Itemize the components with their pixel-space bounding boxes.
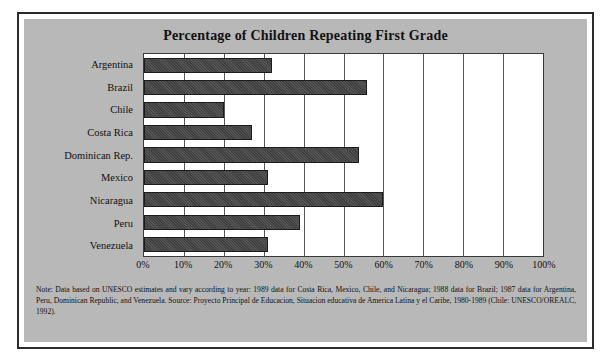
bar-venezuela bbox=[144, 237, 268, 252]
x-tick-label: 100% bbox=[532, 259, 555, 270]
x-tick-label: 0% bbox=[136, 259, 149, 270]
bar-brazil bbox=[144, 80, 367, 95]
bar-slot bbox=[144, 166, 543, 188]
bar-series bbox=[144, 54, 543, 256]
chart-outer-frame: Percentage of Children Repeating First G… bbox=[17, 12, 594, 349]
category-label: Brazil bbox=[24, 76, 141, 99]
plot-area bbox=[143, 53, 544, 257]
category-label: Mexico bbox=[24, 166, 141, 189]
x-tick-label: 50% bbox=[334, 259, 352, 270]
category-label: Chile bbox=[24, 98, 141, 121]
x-tick-label: 60% bbox=[374, 259, 392, 270]
bar-nicaragua bbox=[144, 192, 383, 207]
category-label: Peru bbox=[24, 212, 141, 235]
x-tick-label: 70% bbox=[415, 259, 433, 270]
bar-slot bbox=[144, 99, 543, 121]
category-label: Costa Rica bbox=[24, 121, 141, 144]
value-axis: 0%10%20%30%40%50%60%70%80%90%100% bbox=[143, 259, 544, 277]
chart-title: Percentage of Children Repeating First G… bbox=[24, 28, 587, 44]
plot-wrapper: Argentina Brazil Chile Costa Rica Domini… bbox=[24, 53, 587, 283]
x-tick-label: 10% bbox=[174, 259, 192, 270]
category-label: Dominican Rep. bbox=[24, 144, 141, 167]
bar-slot bbox=[144, 211, 543, 233]
bar-slot bbox=[144, 76, 543, 98]
bar-dominican-rep bbox=[144, 147, 359, 162]
bar-costa-rica bbox=[144, 125, 252, 140]
x-tick-label: 80% bbox=[455, 259, 473, 270]
bar-argentina bbox=[144, 58, 272, 73]
bar-slot bbox=[144, 144, 543, 166]
bar-slot bbox=[144, 189, 543, 211]
bar-chile bbox=[144, 102, 224, 117]
bar-slot bbox=[144, 234, 543, 256]
bar-slot bbox=[144, 54, 543, 76]
x-tick-label: 30% bbox=[254, 259, 272, 270]
chart-panel: Percentage of Children Repeating First G… bbox=[24, 19, 587, 342]
bar-slot bbox=[144, 121, 543, 143]
x-tick-label: 20% bbox=[214, 259, 232, 270]
bar-peru bbox=[144, 215, 300, 230]
bar-mexico bbox=[144, 170, 268, 185]
category-label: Nicaragua bbox=[24, 189, 141, 212]
category-axis-labels: Argentina Brazil Chile Costa Rica Domini… bbox=[24, 53, 141, 257]
category-label: Venezuela bbox=[24, 234, 141, 257]
x-tick-label: 40% bbox=[294, 259, 312, 270]
category-label: Argentina bbox=[24, 53, 141, 76]
x-tick-label: 90% bbox=[495, 259, 513, 270]
chart-footnote: Note: Data based on UNESCO estimates and… bbox=[36, 285, 576, 317]
